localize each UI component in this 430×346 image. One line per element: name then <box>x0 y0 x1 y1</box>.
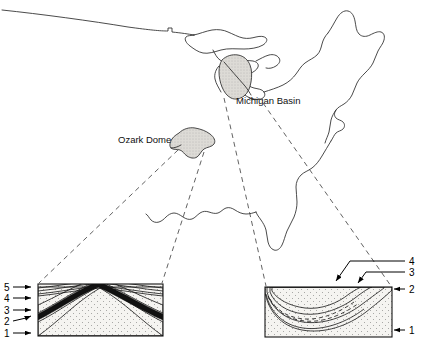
right-label-4: 4 <box>409 256 415 267</box>
michigan-basin-cross-section[interactable] <box>265 287 392 337</box>
right-label-1: 1 <box>409 325 415 336</box>
left-label-3: 3 <box>4 305 10 316</box>
michigan-basin-label: Michigan Basin <box>236 95 300 106</box>
figure-root: Ozark Dome Michigan Basin <box>0 0 430 346</box>
left-label-4: 4 <box>4 293 10 304</box>
right-label-3: 3 <box>409 267 415 278</box>
ozark-dome-cross-section[interactable] <box>38 277 163 336</box>
left-label-1: 1 <box>4 328 10 339</box>
left-label-2: 2 <box>4 316 10 327</box>
right-label-2: 2 <box>409 284 415 295</box>
geology-figure: Ozark Dome Michigan Basin <box>0 0 430 346</box>
ozark-dome-label: Ozark Dome <box>118 134 171 145</box>
left-label-5: 5 <box>4 282 10 293</box>
